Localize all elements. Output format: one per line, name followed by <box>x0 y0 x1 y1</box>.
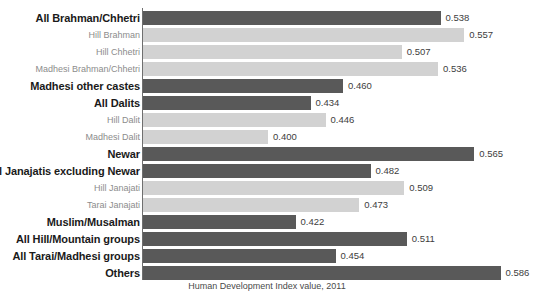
bar <box>143 232 407 246</box>
category-label: Tarai Janajati <box>87 196 140 214</box>
bar-row: Newar0.565 <box>0 145 534 163</box>
bar-row: All Tarai/Madhesi groups0.454 <box>0 247 534 265</box>
category-label: Hill Dalit <box>107 111 140 129</box>
bar-value-label: 0.509 <box>409 180 433 196</box>
category-label: Newar <box>107 145 140 163</box>
bar <box>143 45 402 59</box>
bar <box>143 147 474 161</box>
bar <box>143 79 343 93</box>
bar <box>143 11 441 25</box>
category-label: Muslim/Musalman <box>47 213 140 231</box>
bar-value-label: 0.538 <box>446 10 470 26</box>
category-label: All Dalits <box>94 94 140 112</box>
bar <box>143 164 371 178</box>
bar <box>143 28 464 42</box>
category-label: Hill Brahman <box>88 26 140 44</box>
category-label: Madhesi other castes <box>30 77 140 95</box>
bar-row: Madhesi Dalit0.400 <box>0 128 534 146</box>
bar-row: Tarai Janajati0.473 <box>0 196 534 214</box>
bar-row: Hill Dalit0.446 <box>0 111 534 129</box>
bar <box>143 215 296 229</box>
bar <box>143 249 336 263</box>
bar-value-label: 0.460 <box>348 78 372 94</box>
category-label: Hill Janajati <box>94 179 140 197</box>
bar <box>143 181 404 195</box>
bar-row: Others0.586 <box>0 264 534 282</box>
bar-value-label: 0.422 <box>301 214 325 230</box>
bar <box>143 266 501 280</box>
bar-value-label: 0.507 <box>407 44 431 60</box>
bar-row: All Hill/Mountain groups0.511 <box>0 230 534 248</box>
bar-value-label: 0.454 <box>341 248 365 264</box>
category-label: Others <box>105 264 140 282</box>
bar-row: Madhesi other castes0.460 <box>0 77 534 95</box>
category-label: All Brahman/Chhetri <box>36 9 140 27</box>
bar <box>143 113 326 127</box>
plot-area: All Brahman/Chhetri0.538Hill Brahman0.55… <box>0 0 534 294</box>
bar <box>143 96 311 110</box>
bar-value-label: 0.482 <box>376 163 400 179</box>
category-label: Madhesi Dalit <box>85 128 140 146</box>
bar-value-label: 0.434 <box>316 95 340 111</box>
hdi-bar-chart: All Brahman/Chhetri0.538Hill Brahman0.55… <box>0 0 534 294</box>
bar-row: Madhesi Brahman/Chhetri0.536 <box>0 60 534 78</box>
axis-caption: Human Development Index value, 2011 <box>0 281 534 291</box>
category-label: All Janajatis excluding Newar <box>0 162 140 180</box>
bar-row: Hill Chhetri0.507 <box>0 43 534 61</box>
category-label: Madhesi Brahman/Chhetri <box>35 60 140 78</box>
bar-value-label: 0.473 <box>364 197 388 213</box>
category-label: All Tarai/Madhesi groups <box>12 247 140 265</box>
bar-value-label: 0.557 <box>469 27 493 43</box>
bar-row: All Brahman/Chhetri0.538 <box>0 9 534 27</box>
bar-row: Hill Brahman0.557 <box>0 26 534 44</box>
bar <box>143 130 268 144</box>
bar-value-label: 0.400 <box>273 129 297 145</box>
bar-row: All Dalits0.434 <box>0 94 534 112</box>
category-label: Hill Chhetri <box>96 43 140 61</box>
bar-value-label: 0.511 <box>412 231 435 247</box>
category-label: All Hill/Mountain groups <box>16 230 140 248</box>
bar-row: All Janajatis excluding Newar0.482 <box>0 162 534 180</box>
bar-value-label: 0.446 <box>331 112 355 128</box>
bar-value-label: 0.536 <box>443 61 467 77</box>
bar-row: Muslim/Musalman0.422 <box>0 213 534 231</box>
bar <box>143 62 438 76</box>
bar <box>143 198 359 212</box>
bar-row: Hill Janajati0.509 <box>0 179 534 197</box>
bar-value-label: 0.565 <box>479 146 503 162</box>
bar-value-label: 0.586 <box>506 265 530 281</box>
